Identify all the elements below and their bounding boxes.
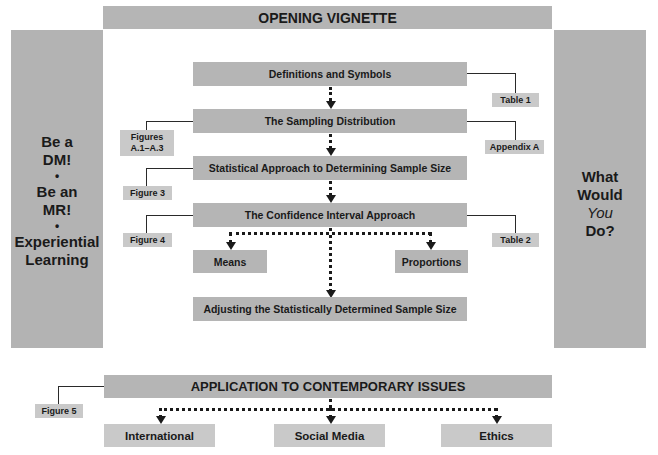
issue-label: Ethics (479, 430, 514, 442)
reference-connector (467, 215, 516, 216)
issue-ethics: Ethics (441, 424, 552, 447)
left-panel-line: Be a (41, 133, 73, 151)
opening-vignette-header: OPENING VIGNETTE (103, 6, 552, 29)
branch-label: Proportions (402, 256, 462, 268)
left-panel-line: DM! (43, 151, 71, 169)
right-panel-line-italic: You (587, 204, 613, 222)
arrow-down-icon (492, 416, 502, 424)
reference-connector (146, 168, 147, 186)
step-label: The Sampling Distribution (265, 115, 396, 127)
reference-connector (515, 215, 516, 233)
step-label: Adjusting the Statistically Determined S… (203, 303, 456, 315)
reference-connector (467, 73, 516, 74)
reference-label: Table 2 (500, 235, 530, 245)
right-panel-line: Would (577, 186, 623, 204)
step-sampling-distribution: The Sampling Distribution (193, 109, 467, 133)
left-panel: Be a DM! • Be an MR! • Experiential Lear… (11, 30, 103, 348)
flow-connector (329, 181, 332, 196)
issues-connector (159, 408, 497, 411)
right-panel-line: What (582, 168, 619, 186)
issue-label: International (125, 430, 194, 442)
left-panel-line: Learning (25, 251, 88, 269)
step-label: The Confidence Interval Approach (245, 209, 416, 221)
arrow-down-icon (426, 242, 436, 250)
arrow-down-icon (226, 242, 236, 250)
right-panel: What Would You Do? (554, 30, 646, 348)
reference-connector (515, 73, 516, 93)
flow-connector (329, 87, 332, 101)
flow-connector (329, 134, 332, 149)
step-adjusting-sample-size: Adjusting the Statistically Determined S… (193, 297, 467, 321)
flow-connector (329, 228, 332, 292)
left-panel-line: MR! (43, 201, 71, 219)
reference-table-1: Table 1 (492, 93, 539, 107)
issue-social-media: Social Media (274, 424, 385, 447)
arrow-down-icon (326, 101, 336, 109)
reference-connector (467, 121, 516, 122)
reference-label: A.1–A.3 (130, 143, 163, 154)
reference-table-2: Table 2 (492, 233, 539, 247)
branch-label: Means (214, 256, 247, 268)
step-statistical-approach: Statistical Approach to Determining Samp… (193, 156, 467, 180)
bullet: • (55, 219, 59, 233)
reference-label: Figure 3 (130, 188, 165, 198)
reference-label: Figures (131, 132, 164, 143)
reference-label: Figure 4 (130, 235, 165, 245)
reference-figure-4: Figure 4 (123, 233, 172, 247)
reference-figure-5: Figure 5 (35, 404, 83, 418)
branch-means: Means (193, 250, 267, 273)
reference-connector (515, 121, 516, 140)
reference-connector (58, 386, 104, 387)
reference-connector (146, 215, 147, 233)
step-label: Definitions and Symbols (269, 68, 392, 80)
reference-connector (146, 121, 147, 130)
arrow-down-icon (156, 416, 166, 424)
step-definitions-and-symbols: Definitions and Symbols (193, 62, 467, 86)
contemporary-issues-title: APPLICATION TO CONTEMPORARY ISSUES (191, 379, 466, 394)
step-confidence-interval-approach: The Confidence Interval Approach (193, 203, 467, 227)
right-panel-line: Do? (585, 222, 614, 240)
bullet: • (55, 169, 59, 183)
reference-figures-a1-a3: Figures A.1–A.3 (120, 130, 174, 156)
step-label: Statistical Approach to Determining Samp… (209, 162, 451, 174)
left-panel-line: Be an (37, 183, 78, 201)
left-panel-line: Experiential (14, 233, 99, 251)
issue-label: Social Media (295, 430, 365, 442)
reference-connector (146, 121, 193, 122)
opening-vignette-title: OPENING VIGNETTE (258, 10, 396, 26)
reference-label: Appendix A (490, 142, 540, 152)
branch-proportions: Proportions (395, 250, 468, 273)
reference-connector (146, 215, 193, 216)
reference-label: Figure 5 (41, 406, 76, 416)
contemporary-issues-header: APPLICATION TO CONTEMPORARY ISSUES (104, 375, 552, 398)
reference-connector (146, 168, 193, 169)
reference-connector (58, 386, 59, 404)
reference-label: Table 1 (500, 95, 530, 105)
arrow-down-icon (326, 195, 336, 203)
arrow-down-icon (326, 416, 336, 424)
issue-international: International (104, 424, 215, 447)
reference-figure-3: Figure 3 (123, 186, 172, 200)
reference-appendix-a: Appendix A (485, 140, 544, 154)
issues-connector (329, 399, 332, 408)
arrow-down-icon (326, 148, 336, 156)
